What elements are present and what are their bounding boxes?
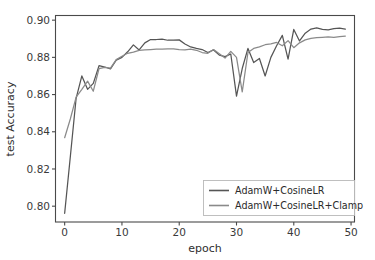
y-tick-label: 0.88	[27, 51, 50, 63]
line-chart: 0.800.820.840.860.880.90 01020304050 epo…	[0, 0, 375, 260]
chart-figure: 0.800.820.840.860.880.90 01020304050 epo…	[0, 0, 375, 260]
y-tick-label: 0.86	[27, 88, 51, 100]
x-tick-label: 40	[287, 226, 300, 238]
x-tick-label: 10	[115, 226, 128, 238]
y-axis-tick-labels: 0.800.820.840.860.880.90	[27, 14, 51, 212]
y-axis-title: test Accuracy	[4, 81, 17, 156]
y-tick-label: 0.84	[27, 125, 51, 137]
x-axis-tick-labels: 01020304050	[61, 226, 357, 238]
x-tick-label: 30	[230, 226, 243, 238]
x-tick-label: 50	[344, 226, 357, 238]
chart-legend[interactable]: AdamW+CosineLR AdamW+CosineLR+Clamp	[204, 181, 364, 216]
x-axis-title: epoch	[188, 242, 222, 255]
legend-label-1: AdamW+CosineLR+Clamp	[235, 200, 363, 211]
y-tick-label: 0.80	[27, 200, 50, 212]
y-tick-label: 0.90	[27, 14, 50, 26]
legend-label-0: AdamW+CosineLR	[235, 185, 325, 196]
x-tick-label: 0	[61, 226, 68, 238]
x-tick-label: 20	[173, 226, 186, 238]
y-tick-label: 0.82	[27, 163, 50, 175]
